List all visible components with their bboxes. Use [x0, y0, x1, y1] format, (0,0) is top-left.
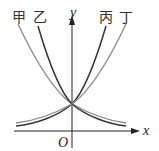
curve-ding [16, 24, 126, 123]
x-axis-arrow-icon [131, 128, 140, 134]
curve-label-yi: 乙 [33, 10, 47, 24]
origin-label: O [58, 136, 68, 150]
curve-label-ding: 丁 [119, 10, 133, 24]
curve-yi [38, 26, 126, 126]
x-axis-label: x [143, 124, 149, 138]
curve-label-jia: 甲 [12, 10, 26, 24]
curve-label-bing: 丙 [99, 10, 113, 24]
y-axis-label: y [70, 6, 76, 20]
curve-bing [16, 26, 106, 126]
